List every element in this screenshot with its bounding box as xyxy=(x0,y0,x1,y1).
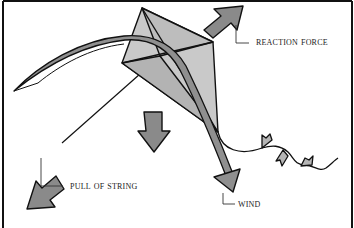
kite-string xyxy=(62,74,140,143)
gravity-arrow xyxy=(138,112,170,152)
pull-of-string-label: Pull of String xyxy=(70,179,137,191)
reaction-force-label: Reaction Force xyxy=(256,35,328,47)
pull-of-string-arrow xyxy=(27,176,64,209)
kite-forces-diagram: Reaction Force Pull of String Wind xyxy=(0,0,354,228)
kite-tail xyxy=(218,132,338,169)
reaction-force-arrow xyxy=(204,6,243,38)
wind-label: Wind xyxy=(238,197,261,209)
